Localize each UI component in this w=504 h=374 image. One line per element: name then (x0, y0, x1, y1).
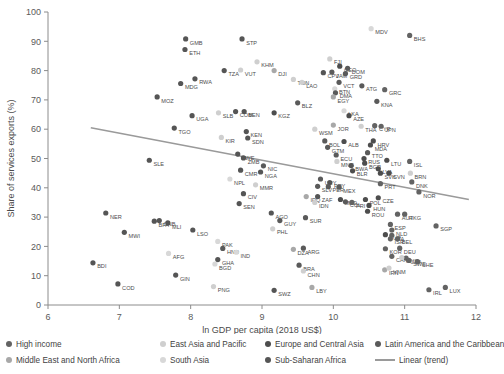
data-point (235, 152, 240, 157)
legend-item[interactable]: East Asia and Pacific (160, 340, 246, 349)
data-point (239, 36, 244, 41)
data-point (215, 257, 220, 262)
data-point (341, 139, 346, 144)
legend-item[interactable]: South Asia (160, 356, 209, 365)
data-point (253, 182, 258, 187)
y-tick-label: 100 (26, 7, 41, 17)
data-point (254, 59, 259, 64)
data-point (291, 247, 296, 252)
data-point-label: KNA (381, 102, 393, 108)
data-point (407, 33, 412, 38)
data-point (329, 69, 334, 74)
data-point-label: GUY (284, 221, 296, 227)
data-point-label: ATG (366, 86, 377, 92)
data-point-label: AGO (275, 214, 288, 220)
data-point (269, 210, 274, 215)
data-point (318, 176, 323, 181)
data-point-label: CHN (308, 272, 320, 278)
data-point (383, 246, 388, 251)
legend-item[interactable]: High income (6, 340, 62, 349)
data-point-label: STP (246, 40, 257, 46)
data-point-label: MDV (375, 29, 388, 35)
data-point (227, 176, 232, 181)
data-point-label: BOL (329, 142, 340, 148)
data-point (122, 230, 127, 235)
legend-item[interactable]: Linear (trend) (375, 356, 448, 365)
x-tick-label: 7 (117, 312, 122, 322)
data-point (166, 251, 171, 256)
data-point (220, 246, 225, 251)
data-point-label: SDN (252, 139, 264, 145)
chart-legend: High incomeEast Asia and PacificEurope a… (0, 336, 481, 374)
data-point-label: ISL (414, 162, 422, 168)
data-point (183, 36, 188, 41)
data-point (369, 26, 374, 31)
data-point-label: TZA (228, 71, 239, 77)
data-point-label: NPL (234, 180, 245, 186)
data-point-label: ROU (372, 212, 384, 218)
data-point (378, 181, 383, 186)
data-point (241, 191, 246, 196)
data-point (237, 201, 242, 206)
data-point-label: VNM (393, 269, 406, 275)
data-point-label: MDG (185, 84, 198, 90)
y-tick-label: 50 (31, 154, 41, 164)
legend-item[interactable]: Middle East and North Africa (6, 356, 120, 365)
data-point-label: MOZ (161, 98, 174, 104)
data-point-label: VUT (245, 71, 257, 77)
data-point-label: LBY (316, 288, 327, 294)
data-point (379, 124, 384, 129)
data-point-label: WSM (319, 130, 333, 136)
data-point (103, 210, 108, 215)
data-point (312, 200, 317, 205)
data-point (407, 159, 412, 164)
data-point (241, 155, 246, 160)
y-tick-label: 80 (31, 66, 41, 76)
legend-item[interactable]: Europe and Central Asia (265, 340, 364, 349)
data-point (402, 212, 407, 217)
legend-dot-marker (6, 357, 12, 363)
data-point-label: GMB (190, 40, 203, 46)
legend-item[interactable]: Latin America and the Caribbean (375, 340, 504, 349)
y-tick-label: 30 (31, 212, 41, 222)
legend-label: Sub-Saharan Africa (275, 356, 346, 365)
data-point-label: ALB (348, 142, 359, 148)
data-point (322, 138, 327, 143)
data-point (389, 254, 394, 259)
data-point (346, 113, 351, 118)
data-point (182, 47, 187, 52)
data-point (152, 219, 157, 224)
data-point (90, 260, 95, 265)
data-point (291, 77, 296, 82)
data-point (345, 66, 350, 71)
data-point-label: EGY (338, 98, 350, 104)
data-point (426, 287, 431, 292)
data-point-label: MWI (129, 233, 141, 239)
data-point (272, 288, 277, 293)
data-point (172, 125, 177, 130)
legend-item[interactable]: Sub-Saharan Africa (265, 356, 346, 365)
data-point (303, 215, 308, 220)
data-point (258, 169, 263, 174)
data-point (368, 142, 373, 147)
trend-line (91, 128, 469, 200)
data-point-label: GIN (180, 276, 190, 282)
y-tick-label: 10 (31, 271, 41, 281)
data-point-label: NIC (268, 166, 278, 172)
legend-row-top: High incomeEast Asia and PacificEurope a… (0, 336, 481, 352)
data-point (395, 212, 400, 217)
legend-dot-marker (265, 357, 271, 363)
data-point (378, 171, 383, 176)
data-point (327, 56, 332, 61)
data-point-label: BLR (357, 171, 368, 177)
data-point-label: NOR (423, 193, 435, 199)
data-point (216, 110, 221, 115)
data-point (343, 71, 348, 76)
data-point-label: SVN (393, 174, 405, 180)
data-point (325, 145, 330, 150)
data-point-label: JOR (338, 126, 349, 132)
data-point (382, 87, 387, 92)
data-point-label: CMR (245, 171, 258, 177)
data-point-label: PRI (356, 203, 366, 209)
